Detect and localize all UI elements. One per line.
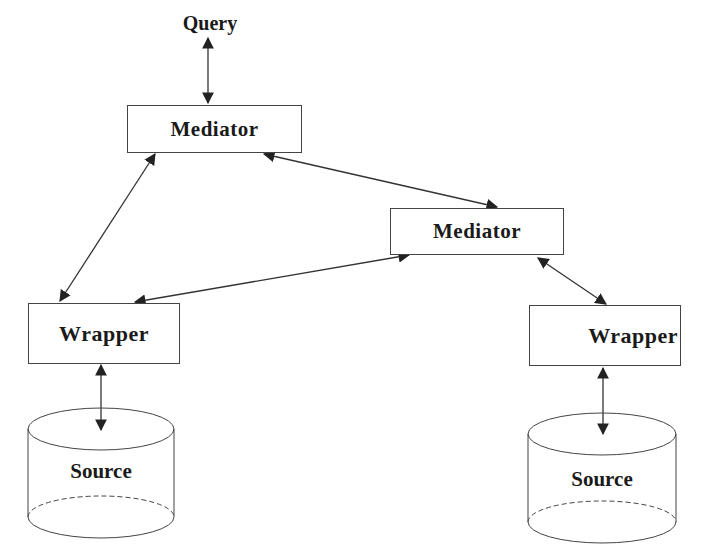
edge-mediator2-wrapper-right bbox=[538, 258, 606, 304]
mediator-label: Mediator bbox=[433, 219, 521, 244]
mediator-node-right: Mediator bbox=[390, 208, 564, 255]
mediator-label: Mediator bbox=[171, 117, 259, 142]
edge-mediator2-wrapper-left bbox=[135, 255, 409, 302]
query-label: Query bbox=[160, 12, 260, 35]
wrapper-label: Wrapper bbox=[588, 323, 678, 349]
source-label-left: Source bbox=[28, 459, 174, 484]
wrapper-label: Wrapper bbox=[59, 321, 149, 347]
source-label-right: Source bbox=[528, 467, 676, 492]
edge-mediator-wrapper-left bbox=[60, 154, 155, 301]
wrapper-node-right: Wrapper bbox=[529, 305, 681, 366]
edge-mediator-mediator bbox=[264, 154, 497, 207]
mediator-node-top: Mediator bbox=[127, 105, 302, 153]
wrapper-node-left: Wrapper bbox=[28, 303, 180, 364]
